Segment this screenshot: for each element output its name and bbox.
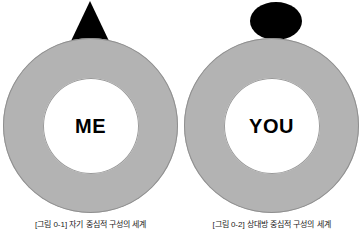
ring-label-you: YOU — [249, 116, 294, 136]
figure-caption-left: [그림 0-1] 자기 중심적 구성의 세계 — [0, 220, 181, 230]
ellipse-head-shape — [250, 2, 302, 40]
triangle-head-shape — [71, 1, 109, 41]
figure-panel-left: ME [그림 0-1] 자기 중심적 구성의 세계 — [0, 0, 181, 230]
ring-label-me: ME — [75, 116, 106, 136]
figure-caption-right: [그림 0-2] 상대방 중심적 구성의 세계 — [181, 220, 362, 230]
ring-diagram-you: YOU — [184, 38, 359, 213]
ring-hole-me: ME — [43, 78, 139, 174]
ring-diagram-me: ME — [3, 38, 178, 213]
ring-hole-you: YOU — [224, 78, 320, 174]
figure-canvas: ME [그림 0-1] 자기 중심적 구성의 세계 YOU [그림 0-2] 상… — [0, 0, 362, 230]
figure-panel-right: YOU [그림 0-2] 상대방 중심적 구성의 세계 — [181, 0, 362, 230]
